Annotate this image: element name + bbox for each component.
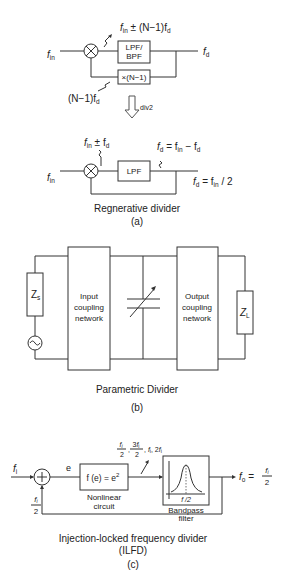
input-network-line3: network	[75, 314, 104, 323]
svg-text:,: ,	[128, 446, 130, 453]
top-mixer-output-annotation: fin ± (N−1)fd	[120, 22, 171, 34]
svg-text:2: 2	[135, 451, 139, 458]
svg-text:2: 2	[120, 451, 124, 458]
harmonics-arrow-icon	[141, 462, 148, 474]
top-feedback-squiggle-icon	[98, 82, 110, 91]
bottom-filter-out-annotation: fd = fin − fd	[157, 141, 201, 153]
bandpass-label-line2: filter	[178, 514, 193, 523]
div2-arrow-icon	[125, 96, 139, 118]
summing-junction-icon	[34, 469, 50, 485]
panel-b-label: (b)	[131, 402, 143, 413]
bandpass-center-label: f /2	[181, 496, 191, 503]
ac-source-icon	[28, 336, 42, 350]
top-filter-line2: BPF	[126, 52, 142, 61]
bottom-filter-squiggle-icon	[159, 161, 162, 168]
nonlinear-function: f (e) = e2	[87, 472, 121, 483]
panel-a-caption: Regnerative divider	[94, 203, 181, 214]
output-network-line3: network	[183, 314, 212, 323]
bottom-lpf-label: LPF	[127, 167, 142, 176]
panel-a-bottom: fin LPF fin ± fd fd = fin − fd fd = fin …	[47, 137, 233, 194]
bottom-mixer-output-annotation: fin ± fd	[84, 137, 110, 149]
svg-text:, fi, 2fi: , fi, 2fi	[144, 446, 162, 454]
input-network-line2: coupling	[74, 303, 104, 312]
top-filter-line1: LPF/	[126, 43, 144, 52]
panel-a-label: (a)	[131, 216, 143, 227]
top-squiggle-arrow-icon	[104, 36, 110, 47]
output-network-line1: Output	[185, 292, 210, 301]
ilfd-output-label: fo =	[239, 471, 254, 483]
nonlinear-label-line1: Nonlinear	[87, 493, 122, 502]
panel-c-label: (c)	[127, 559, 139, 570]
svg-text:fi: fi	[34, 495, 38, 504]
panel-b-caption: Parametric Divider	[96, 384, 179, 395]
panel-b: Zs Input coupling network Output couplin…	[27, 247, 253, 370]
divider-diagrams: fin LPF/ BPF fd ×(N−1) fin ± (N−1)fd (N−…	[0, 0, 283, 585]
svg-text:fi: fi	[265, 466, 269, 475]
error-signal-label: e	[66, 463, 71, 473]
top-feedback-annotation: (N−1)fd	[68, 93, 100, 105]
bottom-mixer-icon	[84, 164, 98, 178]
bottom-input-label: fin	[47, 172, 55, 184]
svg-text:fi: fi	[119, 441, 123, 449]
top-mixer-icon	[84, 44, 98, 58]
bottom-output-annotation: fd = fin / 2	[193, 176, 233, 188]
harmonics-annotation: fi 2 , 3fi 2 , fi, 2fi	[117, 441, 162, 458]
svg-text:2: 2	[34, 507, 39, 516]
top-multiplier-label: ×(N−1)	[122, 73, 147, 82]
input-network-line1: Input	[80, 292, 99, 301]
feedback-fraction-label: fi 2	[31, 495, 41, 516]
panel-c-caption-line1: Injection-locked frequency divider	[59, 533, 208, 544]
bottom-squiggle-arrow-icon	[99, 150, 101, 166]
panel-a-top: fin LPF/ BPF fd ×(N−1) fin ± (N−1)fd (N−…	[47, 22, 210, 105]
panel-c-caption-line2: (ILFD)	[119, 545, 147, 556]
top-input-label: fin	[47, 49, 55, 61]
panel-c: fi e f (e) = e2 Nonlinear circuit fi 2 ,…	[11, 441, 272, 523]
output-network-line2: coupling	[182, 303, 212, 312]
top-output-label: fd	[203, 46, 210, 58]
nonlinear-label-line2: circuit	[94, 502, 116, 511]
div2-label: div2	[140, 104, 153, 111]
svg-text:2: 2	[265, 478, 270, 487]
svg-text:3fi: 3fi	[133, 441, 140, 449]
ilfd-input-label: fi	[13, 463, 17, 475]
